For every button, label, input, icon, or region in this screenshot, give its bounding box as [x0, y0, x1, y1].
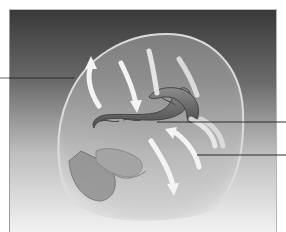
leader-lines	[0, 0, 286, 232]
